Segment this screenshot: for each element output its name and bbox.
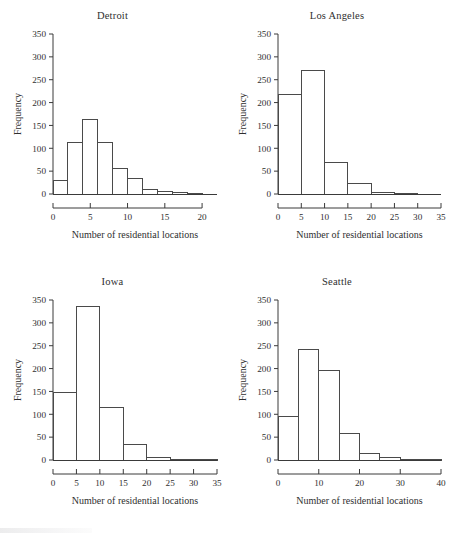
panel-seattle: Seattle 050100150200250300350Frequency01… (225, 266, 449, 533)
y-tick-label: 0 (41, 189, 46, 199)
y-tick-label: 350 (32, 29, 46, 39)
plot-iowa: 050100150200250300350Frequency0510152025… (0, 288, 225, 528)
y-tick-label: 300 (257, 52, 271, 62)
plot-detroit: 050100150200250300350Frequency05101520Nu… (0, 22, 225, 262)
panel-grid: Detroit 050100150200250300350Frequency05… (0, 0, 449, 533)
panel-iowa: Iowa 050100150200250300350Frequency05101… (0, 266, 225, 533)
page-edge-artifact (0, 528, 92, 533)
x-tick-label: 15 (343, 212, 353, 222)
x-tick-label: 35 (436, 212, 446, 222)
histogram-bar (360, 453, 380, 460)
y-tick-label: 50 (262, 432, 272, 442)
y-tick-label: 150 (257, 121, 271, 131)
y-tick-label: 300 (32, 52, 46, 62)
x-tick-label: 5 (74, 478, 79, 488)
x-tick-label: 0 (276, 478, 281, 488)
y-axis-title: Frequency (237, 359, 248, 401)
y-tick-label: 300 (257, 318, 271, 328)
y-tick-label: 200 (257, 364, 271, 374)
x-tick-label: 0 (51, 478, 56, 488)
histogram-bar (278, 94, 301, 194)
histogram-bar (83, 120, 98, 194)
x-tick-label: 15 (119, 478, 129, 488)
histogram-figure: Detroit 050100150200250300350Frequency05… (0, 0, 449, 533)
histogram-bar (123, 444, 146, 460)
x-tick-label: 20 (367, 212, 377, 222)
y-tick-label: 100 (32, 410, 46, 420)
x-tick-label: 30 (189, 478, 199, 488)
x-tick-label: 35 (212, 478, 222, 488)
y-tick-label: 50 (37, 432, 47, 442)
y-tick-label: 200 (32, 98, 46, 108)
panel-detroit: Detroit 050100150200250300350Frequency05… (0, 0, 225, 266)
histogram-bar (325, 162, 348, 194)
y-tick-label: 50 (37, 166, 47, 176)
y-tick-label: 250 (32, 341, 46, 351)
histogram-bar (53, 180, 68, 194)
histogram-bar (128, 178, 143, 194)
histogram-bar (98, 142, 113, 194)
x-tick-label: 5 (88, 212, 93, 222)
histogram-bar (298, 350, 318, 460)
x-tick-label: 15 (160, 212, 170, 222)
panel-title-seattle: Seattle (225, 276, 449, 287)
histogram-bar (76, 307, 99, 460)
histogram-bar (348, 184, 371, 194)
plot-seattle: 050100150200250300350Frequency010203040N… (225, 288, 449, 528)
histogram-bar (53, 393, 76, 460)
y-tick-label: 250 (257, 75, 271, 85)
histogram-bar (278, 416, 298, 460)
y-tick-label: 0 (266, 455, 271, 465)
x-tick-label: 25 (166, 478, 176, 488)
histogram-bar (339, 433, 359, 460)
y-tick-label: 100 (257, 410, 271, 420)
x-tick-label: 0 (51, 212, 56, 222)
y-tick-label: 350 (257, 29, 271, 39)
y-tick-label: 150 (257, 387, 271, 397)
x-tick-label: 30 (396, 478, 406, 488)
y-tick-label: 150 (32, 387, 46, 397)
x-tick-label: 10 (95, 478, 105, 488)
plot-los-angeles: 050100150200250300350Frequency0510152025… (225, 22, 449, 262)
y-tick-label: 300 (32, 318, 46, 328)
y-axis-title: Frequency (237, 93, 248, 135)
y-tick-label: 350 (257, 295, 271, 305)
histogram-bar (301, 70, 324, 194)
x-tick-label: 10 (314, 478, 324, 488)
panel-los-angeles: Los Angeles 050100150200250300350Frequen… (225, 0, 449, 266)
y-tick-label: 200 (257, 98, 271, 108)
x-tick-label: 5 (299, 212, 304, 222)
x-tick-label: 40 (436, 478, 446, 488)
x-tick-label: 20 (197, 212, 207, 222)
x-tick-label: 10 (320, 212, 330, 222)
x-tick-label: 25 (390, 212, 400, 222)
x-tick-label: 0 (276, 212, 281, 222)
y-axis-title: Frequency (12, 359, 23, 401)
y-tick-label: 250 (257, 341, 271, 351)
y-tick-label: 350 (32, 295, 46, 305)
histogram-bar (142, 189, 157, 194)
histogram-bar (100, 407, 123, 460)
x-tick-label: 20 (142, 478, 152, 488)
x-axis-title: Number of residential locations (296, 495, 422, 506)
panel-title-detroit: Detroit (0, 10, 225, 21)
histogram-bar (68, 143, 83, 194)
x-axis-title: Number of residential locations (72, 229, 198, 240)
y-tick-label: 250 (32, 75, 46, 85)
y-tick-label: 150 (32, 121, 46, 131)
x-axis-title: Number of residential locations (72, 495, 198, 506)
histogram-bar (113, 168, 128, 194)
x-tick-label: 10 (123, 212, 133, 222)
x-axis-title: Number of residential locations (296, 229, 422, 240)
panel-title-iowa: Iowa (0, 276, 225, 287)
panel-title-los-angeles: Los Angeles (225, 10, 449, 21)
x-tick-label: 20 (355, 478, 365, 488)
x-tick-label: 30 (413, 212, 423, 222)
y-tick-label: 50 (262, 166, 272, 176)
y-tick-label: 100 (32, 144, 46, 154)
y-tick-label: 0 (266, 189, 271, 199)
histogram-bar (319, 371, 339, 460)
y-tick-label: 200 (32, 364, 46, 374)
y-tick-label: 100 (257, 144, 271, 154)
y-tick-label: 0 (41, 455, 46, 465)
